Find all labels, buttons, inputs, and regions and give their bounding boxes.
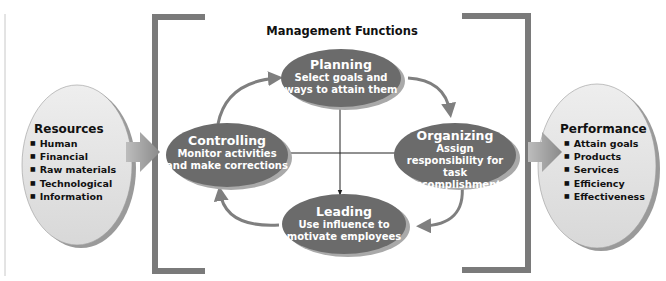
performance-item: Services [564, 163, 658, 176]
management-functions-diagram: Management Functions Planning Select goa… [0, 0, 666, 281]
planning-desc-2: ways to attain them [281, 84, 401, 96]
controlling-desc-2: and make corrections [165, 160, 289, 172]
performance-list: Attain goals Products Services Efficienc… [564, 137, 658, 203]
controlling-name: Controlling [165, 133, 289, 148]
arrow-leading-to-controlling [220, 192, 279, 225]
leading-desc-2: motivate employees [282, 231, 406, 243]
resource-item: Human [30, 137, 130, 150]
resources-title: Resources [34, 122, 130, 136]
performance-panel: Performance Attain goals Products Servic… [558, 122, 658, 203]
organizing-desc-2: responsibility for task [393, 155, 517, 179]
planning-name: Planning [281, 57, 401, 72]
planning-node: Planning Select goals and ways to attain… [281, 57, 401, 96]
resource-item: Financial [30, 150, 130, 163]
arrow-planning-to-organizing [408, 78, 450, 112]
performance-item: Products [564, 150, 658, 163]
performance-title: Performance [560, 122, 658, 136]
resource-item: Raw materials [30, 163, 130, 176]
arrow-controlling-to-planning [218, 78, 277, 124]
performance-item: Attain goals [564, 137, 658, 150]
resources-panel: Resources Human Financial Raw materials … [30, 122, 130, 203]
resource-item: Technological [30, 177, 130, 190]
organizing-desc-1: Assign [393, 143, 517, 155]
organizing-name: Organizing [393, 128, 517, 143]
planning-desc-1: Select goals and [281, 72, 401, 84]
organizing-desc-3: accomplishment [393, 179, 517, 191]
resource-item: Information [30, 190, 130, 203]
organizing-node: Organizing Assign responsibility for tas… [393, 128, 517, 191]
controlling-desc-1: Monitor activities [165, 148, 289, 160]
diagram-title: Management Functions [262, 24, 422, 38]
controlling-node: Controlling Monitor activities and make … [165, 133, 289, 172]
leading-desc-1: Use influence to [282, 219, 406, 231]
leading-node: Leading Use influence to motivate employ… [282, 204, 406, 243]
leading-name: Leading [282, 204, 406, 219]
resources-list: Human Financial Raw materials Technologi… [30, 137, 130, 203]
arrow-organizing-to-leading [422, 185, 462, 226]
performance-item: Efficiency [564, 177, 658, 190]
performance-item: Effectiveness [564, 190, 658, 203]
